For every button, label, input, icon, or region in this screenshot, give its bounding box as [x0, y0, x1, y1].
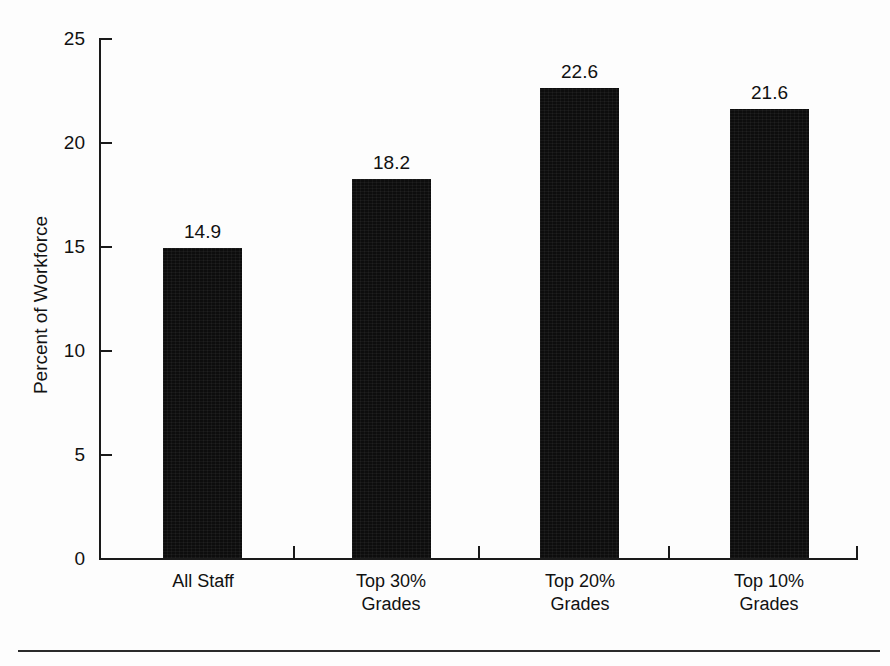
y-axis-title: Percent of Workforce	[31, 216, 50, 394]
bar-top-10-grades[interactable]: 21.6	[730, 109, 809, 558]
bar-value-label-2: 22.6	[561, 62, 598, 81]
x-axis-line	[99, 558, 858, 560]
x-tick-boundary-2	[478, 546, 480, 558]
x-category-label-top-20-grades: Top 20% Grades	[489, 570, 671, 615]
y-tick-label-0: 0	[74, 549, 85, 568]
footer-divider	[18, 650, 880, 652]
x-category-label-all-staff: All Staff	[112, 570, 294, 593]
bar-top-30-grades[interactable]: 18.2	[352, 179, 431, 558]
bar-all-staff[interactable]: 14.9	[163, 248, 242, 558]
x-category-label-top-10-grades: Top 10% Grades	[678, 570, 860, 615]
y-axis-line	[99, 38, 101, 558]
y-tick-label-20: 20	[64, 133, 85, 152]
bar-value-label-3: 21.6	[751, 83, 788, 102]
x-tick-boundary-4	[856, 546, 858, 558]
bar-value-label-1: 18.2	[373, 153, 410, 172]
y-tick-label-15: 15	[64, 237, 85, 256]
x-category-label-top-30-grades: Top 30% Grades	[300, 570, 482, 615]
bar-top-20-grades[interactable]: 22.6	[540, 88, 619, 558]
bar-value-label-0: 14.9	[184, 222, 221, 241]
x-tick-boundary-1	[293, 546, 295, 558]
x-tick-boundary-3	[668, 546, 670, 558]
bar-chart-figure: Percent of Workforce 0 5 10 15 20 25	[0, 0, 890, 666]
y-tick-label-5: 5	[74, 445, 85, 464]
y-tick-label-10: 10	[64, 341, 85, 360]
plot-area: 0 5 10 15 20 25 14.9	[99, 38, 858, 558]
y-tick-label-25: 25	[64, 29, 85, 48]
